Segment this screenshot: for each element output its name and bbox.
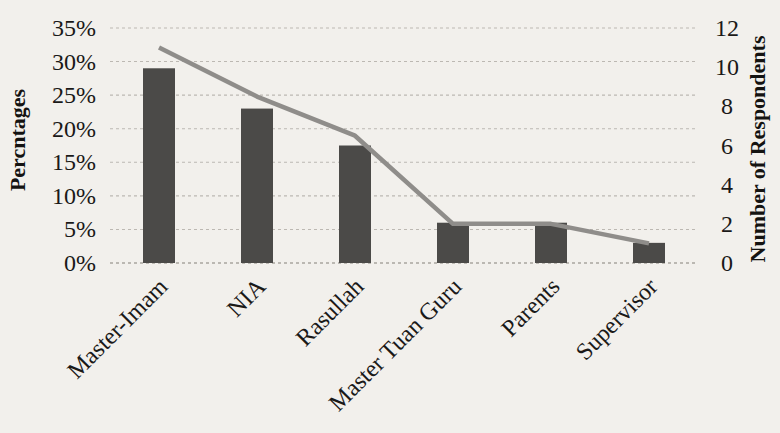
bars-layer	[143, 68, 665, 263]
combo-chart: 0%5%10%15%20%25%30%35% 024681012 Master-…	[0, 0, 780, 433]
x-axis-label-rasullah: Rasullah	[291, 273, 369, 351]
right-axis-ticks: 024681012	[715, 15, 739, 276]
right-axis-title: Number of Respondents	[745, 35, 770, 262]
right-axis-tick: 10	[715, 54, 739, 80]
bar-nia	[241, 109, 273, 263]
bar-rasullah	[339, 146, 371, 264]
left-axis-tick: 10%	[52, 183, 96, 209]
bar-master-imam	[143, 68, 175, 263]
scanned-chart-page: 0%5%10%15%20%25%30%35% 024681012 Master-…	[0, 0, 780, 433]
left-axis-title: Percntages	[5, 88, 30, 191]
right-axis-tick: 0	[721, 250, 733, 276]
left-axis-tick: 25%	[52, 82, 96, 108]
x-axis-label-supervisor: Supervisor	[571, 273, 663, 365]
respondents-line	[159, 48, 649, 244]
left-axis-tick: 35%	[52, 15, 96, 41]
right-axis-tick: 6	[721, 133, 733, 159]
x-axis-category-labels: Master-ImamNIARasullahMaster Tuan GuruPa…	[62, 273, 662, 416]
left-axis-tick: 0%	[64, 250, 96, 276]
left-axis-tick: 30%	[52, 49, 96, 75]
line-series-layer	[159, 48, 649, 244]
left-axis-tick: 5%	[64, 216, 96, 242]
left-axis-ticks: 0%5%10%15%20%25%30%35%	[52, 15, 96, 276]
left-axis-tick: 20%	[52, 116, 96, 142]
x-axis-label-master-imam: Master-Imam	[62, 273, 173, 384]
gridlines-layer	[110, 28, 698, 263]
right-axis-tick: 12	[715, 15, 739, 41]
right-axis-tick: 8	[721, 93, 733, 119]
x-axis-label-parents: Parents	[496, 273, 564, 341]
right-axis-tick: 4	[721, 172, 733, 198]
bar-supervisor	[633, 243, 665, 263]
left-axis-tick: 15%	[52, 149, 96, 175]
right-axis-tick: 2	[721, 211, 733, 237]
bar-parents	[535, 223, 567, 263]
x-axis-label-nia: NIA	[222, 273, 271, 322]
bar-master-tuan-guru	[437, 223, 469, 263]
